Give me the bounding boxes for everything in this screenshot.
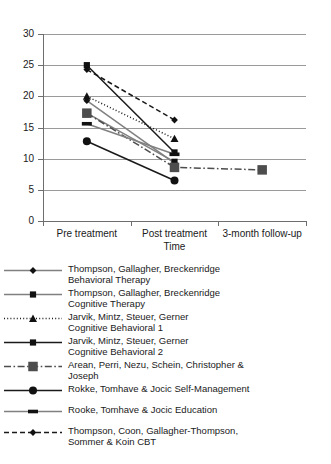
x-axis-title: Time (43, 241, 306, 252)
line-chart: 051015202530 Pre treatmentPost treatment… (0, 0, 331, 255)
legend-item[interactable]: Thompson, Coon, Gallagher-Thompson,Somme… (0, 424, 331, 447)
data-point-marker (82, 122, 92, 126)
legend-key-diamond-icon (0, 263, 68, 278)
y-tick-label: 25 (12, 60, 34, 70)
legend-label: Arean, Perri, Nezu, Schein, Christopher … (68, 358, 331, 381)
data-point-marker (30, 339, 36, 345)
y-tick-label: 30 (12, 29, 34, 39)
legend-item[interactable]: Rokke, Tomhave & Jocic Self-Management (0, 382, 331, 402)
legend-label: Rokke, Tomhave & Jocic Self-Management (68, 382, 331, 394)
legend-label: Jarvik, Mintz, Steuer, GernerCognitive B… (68, 310, 331, 333)
data-point-marker (257, 165, 267, 175)
y-tick-label: 0 (12, 216, 34, 226)
data-point-marker (28, 410, 38, 414)
legend-key-square-large-gray-icon (0, 359, 68, 374)
x-category-label: Pre treatment (43, 228, 131, 239)
series-1 (84, 110, 178, 165)
legend-key-circle-icon (0, 383, 68, 398)
series-6 (82, 122, 180, 156)
legend-item[interactable]: Jarvik, Mintz, Steuer, GernerCognitive B… (0, 310, 331, 333)
data-point-marker (29, 387, 37, 395)
x-category-label: 3-month follow-up (218, 228, 306, 239)
legend-item[interactable]: Thompson, Gallagher, BreckenridgeBehavio… (0, 262, 331, 285)
legend-label: Thompson, Gallagher, BreckenridgeCogniti… (68, 286, 331, 309)
data-point-marker (170, 163, 180, 173)
data-point-marker (83, 92, 91, 99)
data-point-marker (171, 176, 179, 184)
series-plot-area (43, 34, 306, 222)
legend-key-bar-icon (0, 404, 68, 419)
y-tick-label: 20 (12, 91, 34, 101)
series-7 (83, 66, 177, 123)
legend-label: Jarvik, Mintz, Steuer, GernerCognitive B… (68, 334, 331, 357)
legend-key-triangle-icon (0, 311, 68, 326)
legend-item[interactable]: Arean, Perri, Nezu, Schein, Christopher … (0, 358, 331, 381)
legend-label: Thompson, Gallagher, BreckenridgeBehavio… (68, 262, 331, 285)
legend-label: Thompson, Coon, Gallagher-Thompson,Somme… (68, 424, 331, 447)
legend-key-square-icon (0, 335, 68, 350)
data-point-marker (30, 291, 36, 297)
x-category-label: Post treatment (131, 228, 219, 239)
data-point-marker (28, 362, 38, 372)
series-line (87, 141, 175, 180)
legend-item[interactable]: Thompson, Gallagher, BreckenridgeCogniti… (0, 286, 331, 309)
data-point-marker (83, 137, 91, 145)
data-point-marker (170, 153, 180, 157)
series-line (87, 70, 175, 120)
data-point-marker (30, 429, 37, 436)
series-5 (83, 137, 179, 184)
series-2 (83, 92, 179, 142)
x-tick-mark (131, 221, 132, 226)
legend-label: Rooke, Tomhave & Jocic Education (68, 403, 331, 415)
data-point-marker (82, 108, 92, 118)
x-tick-mark (306, 221, 307, 226)
data-point-marker (171, 117, 178, 124)
y-tick-label: 15 (12, 123, 34, 133)
data-point-marker (171, 135, 179, 142)
legend-key-square-icon (0, 287, 68, 302)
y-tick-label: 10 (12, 154, 34, 164)
x-tick-mark (43, 221, 44, 226)
chart-page: 051015202530 Pre treatmentPost treatment… (0, 0, 331, 464)
x-tick-mark (218, 221, 219, 226)
legend-key-diamond-icon (0, 425, 68, 440)
legend-item[interactable]: Jarvik, Mintz, Steuer, GernerCognitive B… (0, 334, 331, 357)
y-tick-label: 5 (12, 185, 34, 195)
legend-item[interactable]: Rooke, Tomhave & Jocic Education (0, 403, 331, 423)
data-point-marker (30, 267, 37, 274)
chart-legend: Thompson, Gallagher, BreckenridgeBehavio… (0, 262, 331, 448)
